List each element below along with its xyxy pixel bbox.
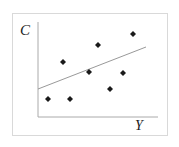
data-points-group xyxy=(45,31,136,102)
scatter-plot-figure: C Y xyxy=(0,0,179,147)
data-point-marker xyxy=(130,31,136,37)
x-axis-label: Y xyxy=(135,119,143,133)
data-point-marker xyxy=(60,59,66,65)
data-point-marker xyxy=(95,42,101,48)
trendline-group xyxy=(38,47,146,89)
fitted-trendline xyxy=(38,47,146,89)
data-point-marker xyxy=(67,96,73,102)
y-axis-label: C xyxy=(20,23,30,38)
data-point-marker xyxy=(45,96,51,102)
data-point-marker xyxy=(120,70,126,76)
axes-group xyxy=(38,22,158,117)
data-point-marker xyxy=(107,86,113,92)
